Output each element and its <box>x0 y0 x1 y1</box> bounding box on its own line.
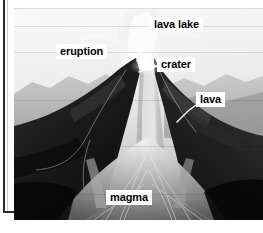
label-crater: crater <box>157 57 195 72</box>
label-lava: lava <box>196 92 225 107</box>
frame-rule-vertical <box>3 0 5 213</box>
label-eruption: eruption <box>56 44 107 59</box>
frame-rule-vertical-inner <box>7 0 8 213</box>
label-magma: magma <box>106 190 152 205</box>
volcano-illustration <box>14 8 263 220</box>
label-lava-lake: lava lake <box>150 17 203 32</box>
volcano-photo <box>14 8 263 220</box>
figure-root: lava lake eruption crater lava magma <box>0 0 263 233</box>
